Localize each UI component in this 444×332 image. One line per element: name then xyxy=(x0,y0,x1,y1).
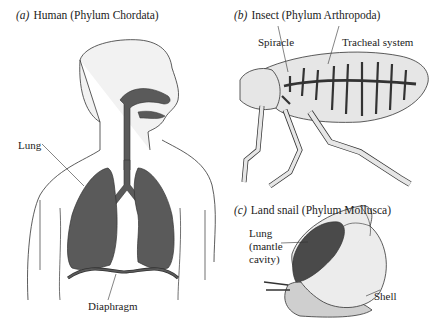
panel-b-letter: (b) xyxy=(234,9,247,21)
panel-c-title: (c)Land snail (Phylum Mollusca) xyxy=(234,204,391,216)
lung-leader-line xyxy=(42,144,84,186)
snail-lung-label-line1: Lung xyxy=(249,227,272,239)
panel-a-letter: (a) xyxy=(16,9,29,21)
shell-label: Shell xyxy=(374,290,397,302)
diaphragm-label: Diaphragm xyxy=(88,300,137,312)
panel-c-title-text: Land snail (Phylum Mollusca) xyxy=(251,204,391,216)
snail-lung-label-line2: (mantle xyxy=(249,240,283,252)
diaphragm-leader-line xyxy=(108,274,116,300)
snail-figure xyxy=(264,206,386,317)
tracheal-system-label: Tracheal system xyxy=(342,36,413,48)
spiracle-label: Spiracle xyxy=(258,36,294,48)
panel-a-title-text: Human (Phylum Chordata) xyxy=(33,9,158,21)
snail-lung-label-line3: cavity) xyxy=(249,253,280,265)
human-figure xyxy=(28,40,216,300)
panel-b-title: (b)Insect (Phylum Arthropoda) xyxy=(234,9,380,21)
human-lung-label: Lung xyxy=(18,139,41,151)
panel-b-title-text: Insect (Phylum Arthropoda) xyxy=(251,9,380,21)
panel-a-title: (a)Human (Phylum Chordata) xyxy=(16,9,159,21)
insect-figure xyxy=(240,26,428,186)
panel-c-letter: (c) xyxy=(234,204,247,216)
respiratory-systems-diagram xyxy=(0,0,444,332)
